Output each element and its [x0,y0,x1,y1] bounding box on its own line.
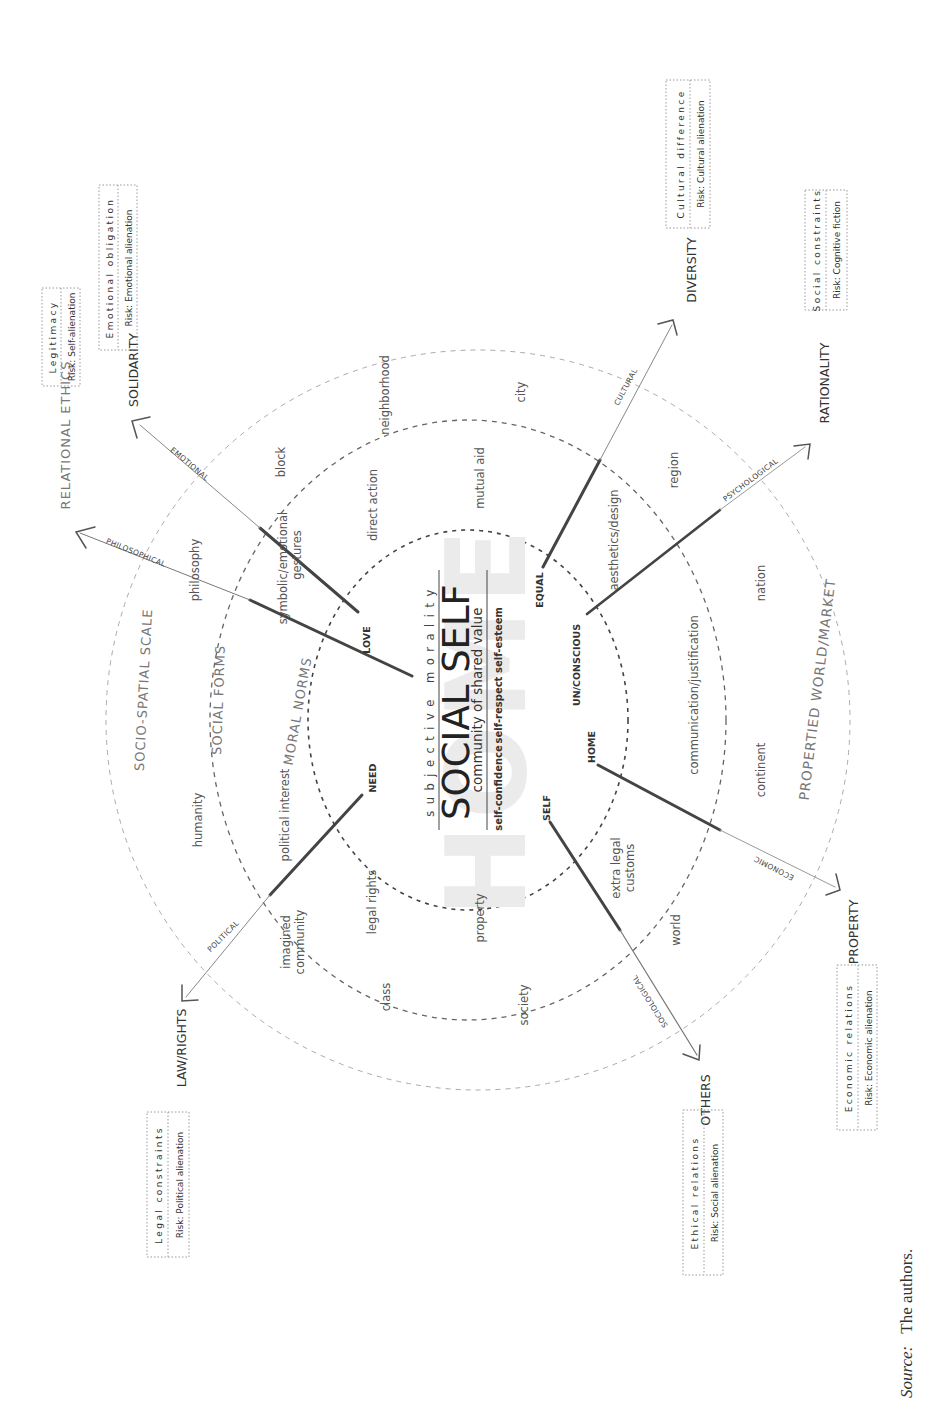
self-esteem: self-esteem [493,607,504,673]
term-community: community [293,909,307,974]
term-direct-action: direct action [366,469,380,541]
arrowhead-sociological [683,1045,700,1060]
term-political-interest: political interest [278,768,292,861]
box-cultural-title: Cultural difference [676,89,686,218]
node-self: SELF [541,795,552,821]
axis-cultural-thin [600,325,672,460]
end-others: OTHERS [698,1074,713,1125]
box-emotional-title: Emotional obligation [105,198,115,339]
ring-label-socio-spatial: SOCIO-SPATIAL SCALE [132,608,155,771]
term-region: region [667,452,681,488]
node-unconscious: UN/CONSCIOUS [571,624,582,706]
node-equal: EQUAL [534,572,545,607]
label-economic: ECONOMIC [752,854,795,882]
ring-label-social-forms: SOCIAL FORMS [209,645,228,755]
end-rationality: RATIONALITY [817,342,832,423]
social-self-diagram: HOME subjective morality SOCIAL SELF com… [0,0,926,1412]
box-social-risk: Risk: Cognitive fiction [832,201,842,299]
label-philosophical: PHILOSOPHICAL [105,537,168,569]
self-respect: self-respect [493,676,504,743]
axis-psychological-thin [720,447,805,510]
term-nation: nation [754,565,768,601]
axis-emotional-thick [260,528,358,612]
term-imagined: imagined [279,915,293,969]
box-social-title: Social constraints [812,189,822,312]
term-society: society [517,984,531,1025]
term-mutual-aid: mutual aid [473,447,487,509]
axis-economic-thin [720,830,835,887]
box-ethical-title: Ethical relations [690,1136,700,1249]
box-emotional-risk: Risk: Emotional alienation [124,209,134,326]
arrowhead-political [182,985,198,1001]
end-diversity: DIVERSITY [684,237,699,303]
arrowhead-emotional [132,417,150,438]
end-law-rights: LAW/RIGHTS [174,1009,189,1088]
term-property: property [473,893,487,942]
box-ethical-risk: Risk: Social alienation [710,1144,720,1243]
term-class: class [379,983,393,1012]
box-economic-risk: Risk: Economic alienation [864,990,874,1106]
term-customs: customs [623,844,637,892]
shared-value-subtitle: community of shared value [469,608,485,793]
arc-label-relational-ethics: RELATIONAL ETHICS [58,361,73,510]
self-confidence: self-confidence [493,745,504,831]
term-block: block [274,446,288,477]
term-communication: communication/justification [687,615,701,775]
source-text: The authors. [897,1249,916,1334]
arrowhead-economic [826,874,840,895]
term-gestures: gestures [290,530,304,580]
term-philosophy: philosophy [188,539,202,602]
node-love: LOVE [361,626,372,653]
box-legal-title: Legal constraints [154,1126,164,1244]
label-psychological: PSYCHOLOGICAL [721,456,780,504]
source-label: Source: [897,1346,916,1398]
axis-political-thin [186,895,270,997]
term-legal-rights: legal rights [365,870,379,934]
term-aesthetics: aesthetics/design [607,489,621,590]
source-caption: Source:The authors. [897,1249,917,1398]
term-world: world [669,914,683,946]
box-legitimacy-title: Legitimacy [48,300,58,373]
term-continent: continent [754,742,768,797]
end-solidarity: SOLIDARITY [126,333,141,407]
box-legitimacy-risk: Risk: Self-alienation [67,293,77,382]
arrowhead-psychological [794,444,810,459]
node-home: HOME [586,731,597,763]
box-cultural-risk: Risk: Cultural alienation [696,100,706,207]
node-need: NEED [367,763,378,792]
axis-cultural-thick [543,460,600,567]
term-symbolic: symbolic/emotional [276,512,290,625]
box-economic-title: Economic relations [844,984,854,1113]
term-extra-legal: extra legal [609,837,623,898]
term-city: city [514,381,528,402]
arc-label-propertied-world: PROPERTIED WORLD/MARKET [795,578,838,802]
term-neighborhood: neighborhood [378,355,392,435]
end-property: PROPERTY [846,899,861,964]
axis-sociological-thin [620,930,697,1055]
axis-economic-thick [598,765,720,830]
label-cultural: CULTURAL [612,366,639,406]
term-humanity: humanity [191,792,205,847]
ring-label-moral-norms: MORAL NORMS [281,656,315,767]
box-legal-risk: Risk: Political alienation [175,1132,185,1239]
label-emotional: EMOTIONAL [169,445,212,483]
axis-philosophical-thick [250,600,412,676]
